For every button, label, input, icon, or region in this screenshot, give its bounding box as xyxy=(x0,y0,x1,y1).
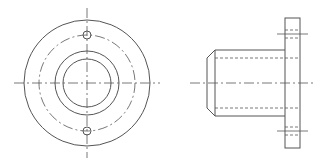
side-view xyxy=(190,18,313,148)
front-view xyxy=(14,8,160,158)
technical-drawing xyxy=(0,0,329,164)
